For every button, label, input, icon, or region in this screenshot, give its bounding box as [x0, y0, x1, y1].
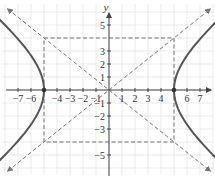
y-axis-label: y	[103, 1, 109, 13]
y-tick-label: 3	[100, 46, 105, 57]
x-tick-label: −3	[65, 93, 76, 104]
y-tick-label: 2	[100, 59, 105, 70]
x-tick-label: −4	[52, 93, 63, 104]
vertex-point	[172, 88, 177, 93]
x-tick-label: −6	[26, 93, 37, 104]
y-tick-label: −2	[94, 111, 105, 122]
x-tick-label: 2	[133, 93, 138, 104]
y-tick-label: 5	[100, 20, 105, 31]
y-tick-label: −1	[94, 98, 105, 109]
y-tick-label: −3	[94, 124, 105, 135]
x-tick-label: 3	[146, 93, 151, 104]
y-tick-label: −5	[94, 150, 105, 161]
vertex-point	[42, 88, 47, 93]
hyperbola-plot: −7−6−4−3−2−11234675321−1−2−3−5 y	[0, 0, 215, 179]
x-tick-label: 4	[159, 93, 164, 104]
x-tick-label: 7	[198, 93, 203, 104]
axes	[6, 13, 211, 176]
x-tick-label: 1	[120, 93, 125, 104]
x-tick-label: 6	[185, 93, 190, 104]
x-tick-label: −7	[13, 93, 24, 104]
y-tick-label: 1	[100, 72, 105, 83]
x-tick-label: −2	[78, 93, 89, 104]
